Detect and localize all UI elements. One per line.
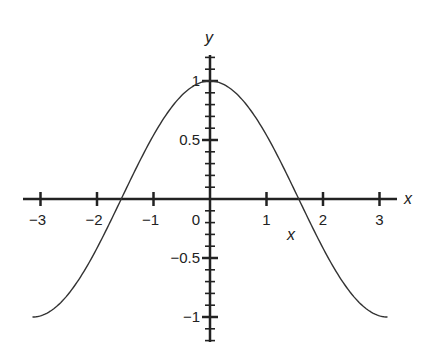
y-tick-label: −0.5: [170, 249, 200, 266]
x-tick-label: 0: [192, 211, 200, 228]
y-tick-label: 0.5: [179, 131, 200, 148]
x-tick-label: −2: [85, 211, 102, 228]
x-tick-label: 1: [262, 211, 270, 228]
x-axis-label: x: [403, 190, 413, 207]
x-tick-label: −1: [142, 211, 159, 228]
x-tick-label: 3: [375, 211, 383, 228]
cosine-chart: −3−2−1012310.5−0.5−1 x y x: [0, 0, 437, 357]
x-tick-label: 2: [319, 211, 327, 228]
x-curve-label: x: [286, 226, 296, 243]
y-tick-label: −1: [183, 308, 200, 325]
axes: [23, 55, 397, 342]
y-axis-label: y: [204, 29, 214, 46]
x-tick-label: −3: [29, 211, 46, 228]
